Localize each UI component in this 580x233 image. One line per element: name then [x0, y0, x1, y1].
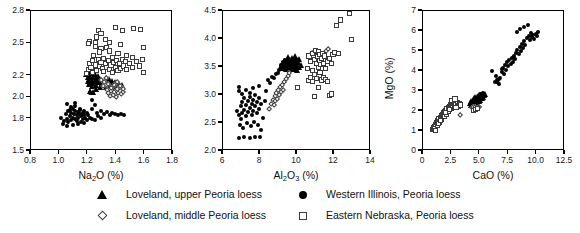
x-axis-tick-label: 0.8	[16, 156, 44, 165]
x-axis-tick-label: 12.5	[550, 156, 578, 165]
legend-label: Loveland, middle Peoria loess	[126, 210, 266, 221]
y-axis-tick	[418, 29, 422, 30]
y-axis-tick-label: 1.8	[0, 114, 24, 123]
data-point-series-0	[235, 109, 239, 113]
x-axis-tick	[143, 150, 144, 154]
data-point-series-3	[336, 51, 341, 56]
data-point-series-3	[312, 94, 317, 99]
x-axis-tick-label: 12	[319, 156, 347, 165]
data-point-series-3	[338, 17, 343, 22]
data-point-series-3	[103, 37, 108, 42]
data-point-series-3	[323, 66, 328, 71]
x-axis-tick-label: 0	[408, 156, 436, 165]
data-point-series-3	[433, 128, 438, 133]
x-axis-tick-label: 1.4	[101, 156, 129, 165]
y-axis-tick-label: 2	[392, 106, 416, 115]
data-point-series-3	[124, 53, 129, 58]
data-point-series-3	[295, 85, 300, 90]
data-point-series-3	[475, 106, 480, 111]
y-axis-tick-label: 1	[392, 126, 416, 135]
x-axis-tick	[258, 150, 259, 154]
data-point-series-1	[292, 53, 298, 59]
x-axis-tick-label: 2.5	[436, 156, 464, 165]
data-point-series-3	[140, 57, 145, 62]
legend-label: Western Illinois, Peoria loess	[326, 189, 461, 200]
data-point-series-3	[305, 66, 310, 71]
x-axis-tick-label: 1.8	[158, 156, 186, 165]
data-point-series-3	[452, 96, 457, 101]
x-axis-tick-label: 7.5	[493, 156, 521, 165]
chart-panel-mgo: 02.55.07.510.012.501234567CaO (%)MgO (%)	[386, 0, 580, 185]
data-point-series-3	[334, 23, 339, 28]
x-axis-tick	[450, 150, 451, 154]
data-point-series-3	[137, 63, 142, 68]
data-point-series-0	[502, 72, 506, 76]
x-axis-tick	[221, 150, 222, 154]
y-axis-tick	[218, 9, 222, 10]
x-axis-title: Na2O (%)	[10, 170, 192, 181]
marker-square	[299, 212, 307, 220]
x-axis-title: CaO (%)	[402, 170, 580, 181]
data-point-series-1	[93, 86, 99, 92]
x-axis-tick	[86, 150, 87, 154]
x-axis-tick	[295, 150, 296, 154]
data-point-series-3	[316, 85, 321, 90]
y-axis-tick	[218, 149, 222, 150]
legend-marker	[296, 206, 318, 227]
data-point-series-3	[130, 65, 135, 70]
x-axis-tick	[507, 150, 508, 154]
data-point-series-3	[86, 41, 91, 46]
x-axis-tick	[115, 150, 116, 154]
data-point-series-3	[97, 49, 102, 54]
data-point-series-3	[120, 28, 125, 33]
y-axis-tick-label: 4.5	[190, 6, 216, 15]
data-point-series-3	[310, 79, 315, 84]
data-point-series-0	[535, 34, 539, 38]
data-point-series-3	[138, 27, 143, 32]
y-axis-tick-label: 2.2	[0, 71, 24, 80]
data-point-series-0	[263, 99, 267, 103]
legend-marker	[96, 206, 118, 227]
data-point-series-0	[257, 96, 261, 100]
data-point-series-3	[458, 102, 463, 107]
x-axis-tick-label: 1.6	[130, 156, 158, 165]
x-axis-title: Al2O3 (%)	[202, 170, 390, 181]
legend-marker	[96, 185, 118, 206]
y-axis-tick-label: 2.5	[0, 38, 24, 47]
data-point-series-0	[259, 102, 263, 106]
data-point-series-3	[349, 37, 354, 42]
data-point-series-3	[141, 45, 146, 50]
y-axis-tick	[418, 149, 422, 150]
data-point-series-0	[68, 108, 72, 112]
y-axis-tick-label: 1.5	[0, 146, 24, 155]
marker-diamond	[98, 211, 108, 221]
y-axis-tick-label: 2.5	[190, 118, 216, 127]
x-axis-tick	[171, 150, 172, 154]
x-axis-tick-label: 8	[245, 156, 273, 165]
y-axis-tick	[26, 74, 30, 75]
data-point-series-0	[258, 135, 262, 139]
legend-label: Eastern Nebraska, Peoria loess	[326, 210, 474, 221]
y-axis-tick	[418, 89, 422, 90]
data-point-series-3	[118, 42, 123, 47]
x-axis-tick	[535, 150, 536, 154]
y-axis-tick	[218, 93, 222, 94]
data-point-series-0	[93, 103, 97, 107]
y-axis-tick-label: 3	[392, 86, 416, 95]
data-point-series-0	[241, 126, 245, 130]
data-point-series-3	[107, 48, 112, 53]
x-axis-tick-label: 10.0	[522, 156, 550, 165]
x-axis-tick-label: 5.0	[465, 156, 493, 165]
figure-scatter-panels: 0.81.01.21.41.61.81.51.82.02.22.52.8Na2O…	[0, 0, 580, 233]
y-axis-title: MgO (%)	[384, 43, 395, 113]
y-axis-tick	[26, 9, 30, 10]
y-axis-tick	[418, 69, 422, 70]
data-point-series-0	[261, 116, 265, 120]
data-point-series-3	[113, 25, 118, 30]
y-axis-tick	[218, 65, 222, 66]
data-point-series-3	[438, 118, 443, 123]
y-axis-tick	[218, 121, 222, 122]
x-axis-tick	[332, 150, 333, 154]
data-point-series-0	[253, 135, 257, 139]
data-point-series-0	[239, 117, 243, 121]
